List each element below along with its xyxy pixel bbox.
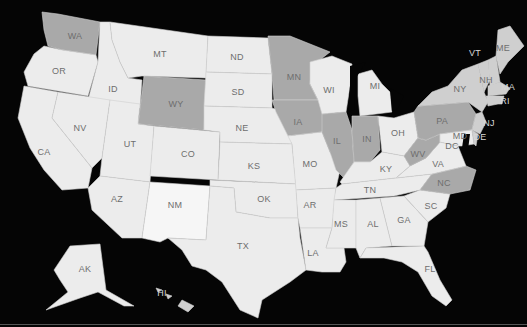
label-ca: CA [38, 147, 51, 157]
label-az: AZ [111, 194, 123, 204]
label-wa: WA [68, 31, 83, 41]
label-tn: TN [364, 185, 376, 195]
label-in: IN [362, 134, 371, 144]
label-ky: KY [380, 164, 392, 174]
label-nj: NJ [483, 118, 494, 128]
label-sc: SC [425, 201, 438, 211]
label-ks: KS [248, 161, 260, 171]
label-ms: MS [334, 219, 348, 229]
state-az[interactable] [88, 176, 150, 238]
state-nm[interactable] [142, 182, 210, 242]
label-nd: ND [230, 52, 243, 62]
label-nh: NH [479, 75, 492, 85]
label-al: AL [367, 219, 378, 229]
label-wy: WY [169, 99, 184, 109]
label-va: VA [432, 159, 444, 169]
label-tx: TX [237, 241, 249, 251]
label-nc: NC [437, 178, 450, 188]
state-hi-island[interactable] [166, 294, 172, 299]
label-ak: AK [79, 264, 91, 274]
state-hi[interactable] [178, 300, 194, 312]
label-ma: MA [501, 82, 515, 92]
label-ny: NY [454, 84, 467, 94]
state-fl[interactable] [360, 246, 452, 306]
label-il: IL [333, 136, 341, 146]
label-wv: WV [411, 149, 426, 159]
label-hi: HI [157, 288, 166, 298]
label-ut: UT [124, 139, 136, 149]
state-mi[interactable] [358, 70, 392, 116]
label-ga: GA [397, 215, 410, 225]
label-fl: FL [425, 264, 436, 274]
label-ri: RI [500, 96, 509, 106]
state-ak[interactable] [46, 244, 134, 310]
label-mn: MN [287, 72, 301, 82]
lake-huron-erie [390, 88, 404, 112]
label-dc: DC [445, 141, 458, 151]
label-vt: VT [469, 48, 481, 58]
label-md: MD [453, 131, 467, 141]
label-sd: SD [232, 87, 245, 97]
label-mi: MI [370, 81, 380, 91]
label-ok: OK [257, 194, 270, 204]
label-ar: AR [304, 200, 317, 210]
label-id: ID [108, 84, 117, 94]
label-or: OR [52, 66, 66, 76]
label-ia: IA [294, 117, 303, 127]
label-mt: MT [153, 49, 166, 59]
label-nv: NV [74, 123, 87, 133]
label-ne: NE [236, 123, 249, 133]
label-la: LA [307, 248, 318, 258]
label-co: CO [181, 149, 195, 159]
label-me: ME [496, 43, 510, 53]
label-oh: OH [391, 128, 405, 138]
label-wi: WI [323, 85, 334, 95]
bottom-border [0, 324, 527, 325]
label-de: DE [474, 132, 487, 142]
state-ct[interactable] [486, 96, 498, 106]
label-mo: MO [303, 159, 318, 169]
label-nm: NM [168, 200, 182, 210]
label-pa: PA [436, 116, 448, 126]
us-map [0, 0, 527, 327]
